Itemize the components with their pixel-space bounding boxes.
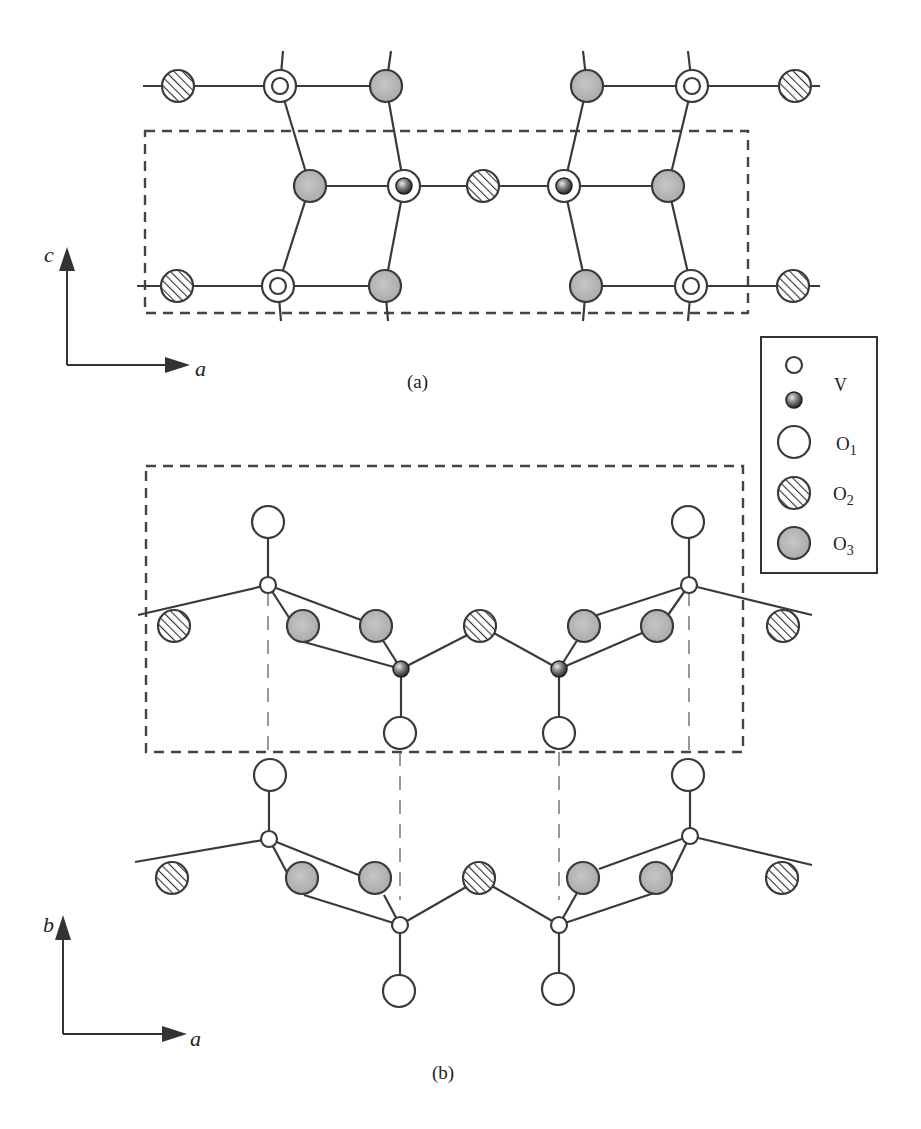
legend-o1-icon — [778, 426, 810, 458]
v-atom — [270, 278, 286, 294]
o3-atom — [652, 170, 684, 202]
o2-atom — [158, 610, 190, 642]
o2-atom — [156, 862, 188, 894]
v-atom-dark — [556, 178, 572, 194]
v-atom — [681, 577, 697, 593]
o1-atom — [254, 759, 286, 791]
o3-atom — [570, 270, 602, 302]
o3-atom — [567, 862, 599, 894]
v-atom — [272, 78, 288, 94]
o2-atom — [779, 70, 811, 102]
o3-atom — [369, 270, 401, 302]
o1-atom — [383, 975, 415, 1007]
o1-atom — [672, 506, 704, 538]
o2-atom — [161, 270, 193, 302]
arrow-right-icon — [162, 1026, 187, 1042]
o2-atom — [766, 862, 798, 894]
v-atom — [260, 577, 276, 593]
o3-atom — [360, 610, 392, 642]
arrow-up-icon — [55, 915, 71, 940]
v-atom — [682, 828, 698, 844]
caption-b: (b) — [432, 1062, 454, 1084]
v-atom — [392, 917, 408, 933]
o3-atom — [568, 610, 600, 642]
legend-v-open-icon — [786, 357, 802, 373]
v-atom — [261, 831, 277, 847]
o1-atom — [384, 717, 416, 749]
legend: V O1 O2 O3 — [761, 337, 877, 573]
v-atom — [551, 917, 567, 933]
atoms-a — [161, 70, 811, 302]
legend-o2-icon — [778, 477, 810, 509]
o2-atom — [467, 170, 499, 202]
o3-atom — [286, 862, 318, 894]
v-atom-dark — [551, 661, 567, 677]
o2-atom — [767, 610, 799, 642]
axis-label-a: a — [195, 356, 206, 381]
atoms-b-lower — [156, 759, 798, 1007]
atoms-b-upper — [158, 506, 799, 749]
o3-atom — [641, 610, 673, 642]
crystal-structure-figure: c a (a) V O1 O2 O3 — [0, 0, 921, 1129]
caption-a: (a) — [407, 371, 428, 393]
axis-label-c: c — [44, 242, 54, 267]
unit-cell-b — [146, 466, 743, 752]
o2-atom — [777, 270, 809, 302]
panel-b: b a (b) — [43, 466, 812, 1084]
axes-ca: c a — [44, 242, 206, 381]
axis-label-a: a — [190, 1026, 201, 1051]
legend-v-dark-icon — [786, 392, 802, 408]
o3-atom — [640, 862, 672, 894]
v-atom-dark — [393, 661, 409, 677]
o3-atom — [287, 610, 319, 642]
arrow-right-icon — [165, 357, 190, 373]
o1-atom — [252, 506, 284, 538]
o2-atom — [162, 70, 194, 102]
legend-label-v: V — [834, 375, 847, 395]
o3-atom — [370, 70, 402, 102]
v-atom — [684, 78, 700, 94]
o1-atom — [543, 717, 575, 749]
arrow-up-icon — [59, 247, 75, 271]
panel-a: c a (a) — [44, 51, 820, 393]
axes-ba: b a — [43, 912, 201, 1051]
o3-atom — [294, 170, 326, 202]
o3-atom — [359, 862, 391, 894]
v-atom-dark — [396, 178, 412, 194]
o2-atom — [464, 610, 496, 642]
o1-atom — [542, 973, 574, 1005]
legend-o3-icon — [778, 527, 810, 559]
o3-atom — [571, 70, 603, 102]
v-atom — [683, 278, 699, 294]
axis-label-b: b — [43, 912, 54, 937]
o2-atom — [463, 862, 495, 894]
o1-atom — [672, 759, 704, 791]
